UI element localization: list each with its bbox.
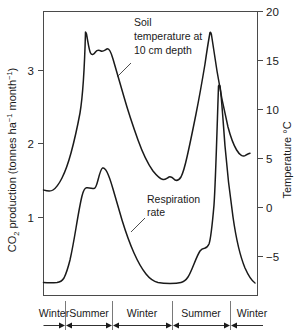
right-axis-ticks — [258, 12, 264, 257]
season-label-winter-2: Winter — [127, 307, 158, 319]
series-respiration-rate-curve — [44, 85, 256, 284]
soil-temp-annotation-line-1: Soil — [134, 16, 152, 28]
soil-temp-annotation-line-3: 10 cm depth — [134, 44, 192, 56]
respiration-annotation-line-2: rate — [147, 206, 165, 218]
right-axis-title: Temperature °C — [281, 121, 293, 198]
soil-temp-annotation-line-2: temperature at — [134, 30, 202, 42]
season-label-winter-3: Winter — [237, 307, 268, 319]
right-tick-label-minus5: −5 — [266, 251, 279, 263]
left-axis-title-sup1: −1 — [5, 114, 14, 123]
season-axis-labels: Winter Summer Winter Summer Winter — [39, 307, 268, 319]
svg-text:CO2 production (tonnes ha−1 mo: CO2 production (tonnes ha−1 month−1) — [5, 68, 21, 253]
left-tick-label-1: 1 — [28, 212, 34, 224]
left-axis-title-main3: month — [6, 80, 18, 114]
left-axis-title-main4: ) — [6, 68, 18, 72]
respiration-annotation-line-1: Respiration — [147, 193, 200, 205]
right-tick-label-20: 20 — [266, 6, 279, 18]
respiration-annotation: Respiration rate — [147, 193, 200, 218]
respiration-leader-line — [131, 218, 145, 232]
soil-temp-annotation: Soil temperature at 10 cm depth — [134, 16, 202, 56]
left-axis-title: CO2 production (tonnes ha−1 month−1) — [5, 68, 21, 253]
season-label-summer-1: Summer — [69, 307, 109, 319]
left-axis-title-sup2: −1 — [5, 71, 14, 80]
left-axis-ticks — [38, 71, 44, 218]
right-axis-title-text: Temperature °C — [281, 121, 293, 198]
right-tick-label-0: 0 — [266, 202, 272, 214]
left-tick-label-3: 3 — [28, 65, 34, 77]
soil-temp-leader-line — [117, 63, 131, 77]
figure-container: 3 2 1 20 15 10 5 0 −5 CO2 production (to… — [0, 0, 297, 336]
right-tick-label-15: 15 — [266, 55, 279, 67]
chart-svg: 3 2 1 20 15 10 5 0 −5 CO2 production (to… — [0, 0, 297, 336]
season-label-summer-2: Summer — [181, 307, 221, 319]
left-axis-title-main2: production (tonnes ha — [6, 121, 18, 231]
season-label-winter-1: Winter — [39, 307, 70, 319]
left-tick-label-2: 2 — [28, 138, 34, 150]
left-axis-title-main1: CO — [6, 235, 18, 252]
right-tick-label-10: 10 — [266, 104, 279, 116]
right-tick-label-5: 5 — [266, 153, 272, 165]
